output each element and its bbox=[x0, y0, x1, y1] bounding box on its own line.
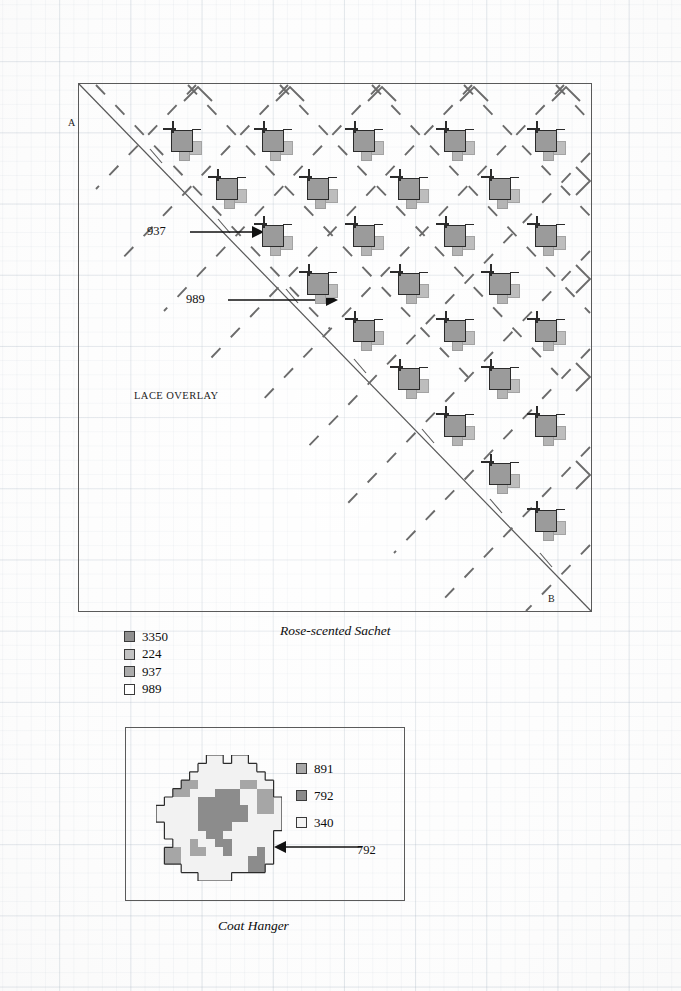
motif-backstitch-vertical bbox=[308, 169, 310, 181]
motif-dark-square-3350 bbox=[398, 273, 420, 295]
motif-backstitch-tick bbox=[465, 129, 474, 130]
motif-cluster bbox=[209, 173, 243, 207]
annotation-label-792: 792 bbox=[357, 843, 376, 858]
motif-cluster bbox=[300, 173, 334, 207]
motif-cluster bbox=[528, 410, 562, 444]
motif-backstitch-horizontal bbox=[299, 271, 312, 273]
main-legend: 3350224937989 bbox=[124, 628, 168, 698]
motif-backstitch-vertical bbox=[263, 121, 265, 133]
motif-backstitch-horizontal bbox=[390, 271, 403, 273]
motif-cluster bbox=[528, 220, 562, 254]
sachet-title: Rose-scented Sachet bbox=[280, 623, 391, 639]
motif-cluster bbox=[437, 220, 471, 254]
motif-backstitch-horizontal bbox=[481, 271, 494, 273]
motif-backstitch-vertical bbox=[354, 121, 356, 133]
coat-legend-swatch-792 bbox=[296, 790, 307, 801]
motif-cluster bbox=[346, 315, 380, 349]
coat-hanger-caption: Coat Hanger bbox=[218, 918, 289, 934]
motif-backstitch-tick bbox=[465, 414, 474, 415]
motif-backstitch-vertical bbox=[399, 359, 401, 371]
motif-backstitch-tick bbox=[465, 224, 474, 225]
motif-outline bbox=[156, 755, 282, 881]
motif-cluster bbox=[528, 125, 562, 159]
motif-backstitch-horizontal bbox=[390, 366, 403, 368]
motif-backstitch-tick bbox=[283, 129, 292, 130]
motif-backstitch-horizontal bbox=[208, 176, 221, 178]
motif-backstitch-vertical bbox=[445, 406, 447, 418]
annotation-label-989: 989 bbox=[186, 292, 205, 307]
motif-backstitch-vertical bbox=[490, 169, 492, 181]
motif-backstitch-vertical bbox=[536, 121, 538, 133]
motif-cluster bbox=[300, 268, 334, 302]
motif-cluster bbox=[346, 220, 380, 254]
motif-backstitch-vertical bbox=[536, 311, 538, 323]
motif-backstitch-tick bbox=[556, 319, 565, 320]
motif-backstitch-vertical bbox=[490, 454, 492, 466]
motif-dark-square-3350 bbox=[353, 225, 375, 247]
legend-item: 224 bbox=[124, 646, 168, 664]
motif-dark-square-3350 bbox=[489, 273, 511, 295]
motif-cluster bbox=[482, 268, 516, 302]
motif-backstitch-vertical bbox=[536, 216, 538, 228]
coat-hanger-legend: 891792340 bbox=[296, 755, 334, 836]
legend-item: 3350 bbox=[124, 628, 168, 646]
motif-backstitch-vertical bbox=[536, 501, 538, 513]
motif-backstitch-horizontal bbox=[345, 223, 358, 225]
motif-backstitch-horizontal bbox=[436, 318, 449, 320]
motif-dark-square-3350 bbox=[535, 320, 557, 342]
coat-legend-item: 340 bbox=[296, 809, 334, 836]
motif-backstitch-horizontal bbox=[299, 176, 312, 178]
motif-backstitch-horizontal bbox=[481, 366, 494, 368]
motif-dark-square-3350 bbox=[444, 225, 466, 247]
motif-backstitch-vertical bbox=[354, 216, 356, 228]
motif-backstitch-horizontal bbox=[436, 413, 449, 415]
motif-backstitch-vertical bbox=[308, 264, 310, 276]
motif-backstitch-horizontal bbox=[254, 128, 267, 130]
motif-cluster bbox=[528, 315, 562, 349]
motif-backstitch-vertical bbox=[536, 406, 538, 418]
motif-backstitch-horizontal bbox=[527, 413, 540, 415]
motif-backstitch-horizontal bbox=[436, 223, 449, 225]
motif-backstitch-horizontal bbox=[345, 128, 358, 130]
motif-backstitch-vertical bbox=[217, 169, 219, 181]
coat-legend-item: 792 bbox=[296, 782, 334, 809]
motif-backstitch-tick bbox=[419, 177, 428, 178]
motif-backstitch-horizontal bbox=[527, 223, 540, 225]
motif-backstitch-horizontal bbox=[345, 318, 358, 320]
coat-legend-label-891: 891 bbox=[314, 761, 334, 777]
coat-legend-label-340: 340 bbox=[314, 815, 334, 831]
motif-backstitch-vertical bbox=[445, 121, 447, 133]
motif-backstitch-tick bbox=[510, 462, 519, 463]
motif-backstitch-horizontal bbox=[254, 223, 267, 225]
legend-label-224: 224 bbox=[142, 646, 162, 662]
motif-cluster bbox=[255, 220, 289, 254]
motif-dark-square-3350 bbox=[398, 178, 420, 200]
edge-chevrons bbox=[576, 167, 590, 489]
motif-cluster bbox=[437, 315, 471, 349]
motif-cluster bbox=[164, 125, 198, 159]
legend-swatch-989 bbox=[124, 684, 135, 695]
coat-legend-swatch-340 bbox=[296, 817, 307, 828]
motif-dark-square-3350 bbox=[353, 130, 375, 152]
motif-backstitch-tick bbox=[556, 129, 565, 130]
motif-backstitch-tick bbox=[419, 272, 428, 273]
motif-dark-square-3350 bbox=[353, 320, 375, 342]
coat-legend-label-792: 792 bbox=[314, 788, 334, 804]
legend-label-937: 937 bbox=[142, 664, 162, 680]
lattice-dashed-up bbox=[96, 85, 590, 611]
motif-backstitch-tick bbox=[192, 129, 201, 130]
motif-backstitch-tick bbox=[556, 224, 565, 225]
motif-backstitch-tick bbox=[510, 272, 519, 273]
motif-dark-square-3350 bbox=[307, 178, 329, 200]
motif-cluster bbox=[437, 125, 471, 159]
motif-cluster bbox=[391, 173, 425, 207]
motif-backstitch-tick bbox=[556, 414, 565, 415]
legend-swatch-224 bbox=[124, 649, 135, 660]
motif-cluster bbox=[391, 363, 425, 397]
motif-cluster bbox=[528, 505, 562, 539]
motif-backstitch-vertical bbox=[399, 169, 401, 181]
top-edge-chevrons bbox=[184, 87, 580, 101]
motif-backstitch-horizontal bbox=[436, 128, 449, 130]
motif-backstitch-vertical bbox=[445, 216, 447, 228]
motif-dark-square-3350 bbox=[535, 415, 557, 437]
